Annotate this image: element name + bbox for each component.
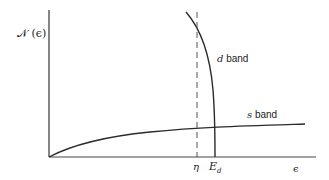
d-band-curve <box>186 12 215 157</box>
d-band-label: d band <box>217 54 248 64</box>
density-of-states-plot <box>0 0 329 180</box>
s-band-label: s band <box>247 110 277 120</box>
y-axis-label: 𝒩 (ϵ) <box>17 28 46 39</box>
eta-label: η <box>193 162 199 172</box>
x-axis-label: ϵ <box>293 164 299 174</box>
ed-label: Ed <box>209 161 222 175</box>
s-band-curve <box>49 124 305 157</box>
